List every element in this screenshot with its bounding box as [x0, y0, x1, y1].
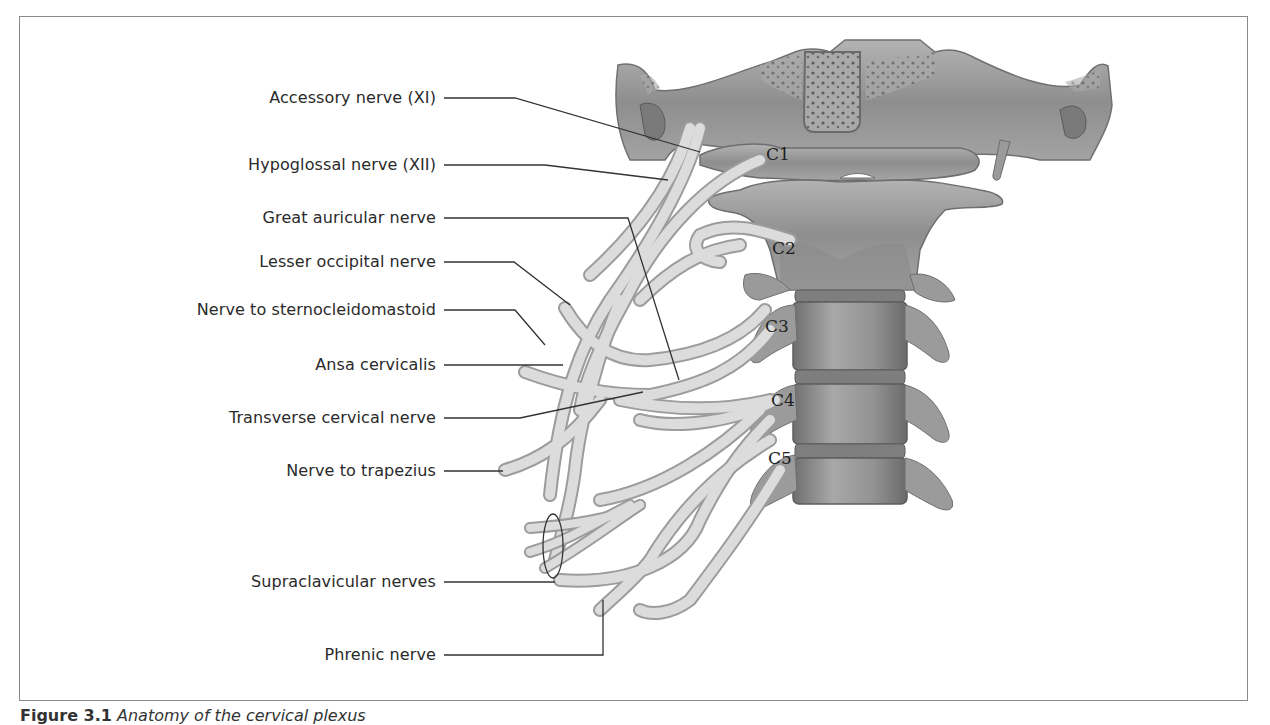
label-hypoglossal-nerve: Hypoglossal nerve (XII) [248, 155, 436, 174]
label-nerve-to-trapezius: Nerve to trapezius [286, 461, 436, 480]
label-accessory-nerve: Accessory nerve (XI) [269, 88, 436, 107]
vertebra-label-c2: C2 [772, 238, 796, 258]
vertebra-label-c4: C4 [771, 390, 795, 410]
label-lesser-occipital-nerve: Lesser occipital nerve [259, 252, 436, 271]
figure-caption: Figure 3.1 Anatomy of the cervical plexu… [20, 706, 366, 725]
vertebra-label-c1: C1 [766, 144, 790, 164]
label-nerve-to-sternocleidomastoid: Nerve to sternocleidomastoid [197, 300, 436, 319]
label-phrenic-nerve: Phrenic nerve [324, 645, 436, 664]
vertebra-label-c5: C5 [768, 448, 792, 468]
figure-title: Anatomy of the cervical plexus [117, 706, 366, 725]
label-great-auricular-nerve: Great auricular nerve [263, 208, 436, 227]
axis-c2 [709, 180, 1003, 302]
label-ansa-cervicalis: Ansa cervicalis [315, 355, 436, 374]
vertebra-label-c3: C3 [765, 316, 789, 336]
label-supraclavicular-nerves: Supraclavicular nerves [251, 572, 436, 591]
label-transverse-cervical-nerve: Transverse cervical nerve [229, 408, 436, 427]
figure-number: Figure 3.1 [20, 706, 112, 725]
